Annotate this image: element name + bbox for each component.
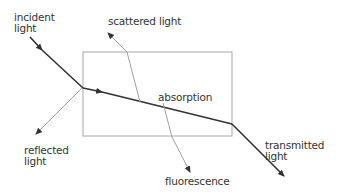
light-interaction-diagram: incident light scattered light absorptio…	[0, 0, 339, 195]
internal-ray	[83, 88, 102, 92]
incident-ray	[30, 37, 42, 50]
absorption-label: absorption	[158, 92, 212, 103]
scattered-light-label: scattered light	[108, 16, 181, 27]
transmitted-light-label: transmitted light	[265, 140, 324, 162]
scattered-ray	[108, 33, 140, 102]
reflected-light-label: reflected light	[24, 145, 69, 167]
incident-light-label: incident light	[14, 12, 55, 34]
fluorescence-label: fluorescence	[165, 176, 229, 187]
reflected-ray	[36, 88, 82, 134]
